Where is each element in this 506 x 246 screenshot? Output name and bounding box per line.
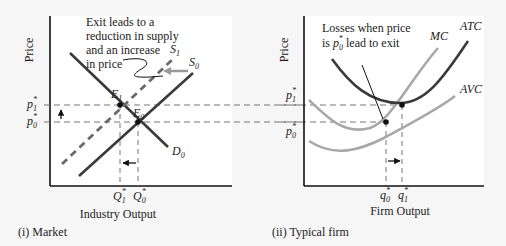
mc-label: MC	[429, 29, 449, 43]
market-y-axis-label: Price	[22, 38, 36, 63]
market-p1-label: p1*	[26, 95, 37, 113]
firm-p1-label: p1*	[285, 86, 296, 104]
firm-annotation-line2: is p0* lead to exit	[322, 34, 400, 52]
market-q1-label: Q1*	[113, 187, 126, 205]
firm-annotation-line1: Losses when price	[322, 21, 411, 35]
firm-panel: Price Losses when price is p0* lead to e…	[272, 16, 484, 239]
firm-p0-label: p0*	[285, 122, 296, 140]
firm-point-p0	[383, 119, 389, 125]
atc-label: ATC	[459, 19, 483, 33]
market-q0-label: Q0*	[133, 187, 146, 205]
firm-q0-label: q0*	[380, 186, 390, 204]
market-p0-label: p0*	[26, 112, 37, 130]
firm-caption: (ii) Typical firm	[272, 225, 350, 239]
firm-q1-label: q1*	[398, 186, 408, 204]
market-caption: (i) Market	[18, 225, 68, 239]
equilibrium-point-e1	[117, 102, 123, 108]
exit-diagram: Price Exit leads to a reduction in suppl…	[0, 0, 506, 246]
firm-point-p1	[399, 102, 405, 108]
market-x-axis-label: Industry Output	[80, 207, 157, 221]
firm-x-axis-label: Firm Output	[370, 204, 430, 218]
firm-y-axis-label: Price	[277, 38, 291, 63]
avc-label: AVC	[459, 82, 483, 96]
